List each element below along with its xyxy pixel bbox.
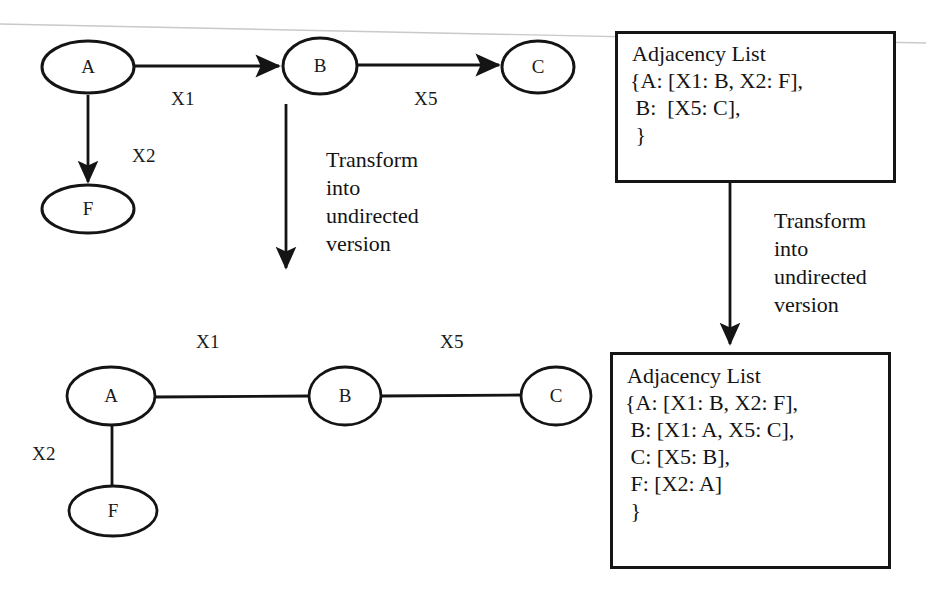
edge-b-c-undirected	[381, 395, 523, 396]
node-label-b-undirected: B	[325, 386, 365, 405]
node-label-a-undirected: A	[91, 386, 131, 405]
adjacency-list-directed-box: Adjacency List {A: [X1: B, X2: F], B: [X…	[615, 31, 896, 183]
adjacency-list-undirected-title: Adjacency List	[627, 362, 761, 389]
edge-label-x5-directed: X5	[414, 88, 438, 110]
node-label-f-undirected: F	[93, 501, 133, 520]
adjacency-list-directed-body: {A: [X1: B, X2: F], B: [X5: C], }	[630, 67, 803, 148]
transform-caption-list: Transform into undirected version	[774, 207, 867, 319]
adjacency-list-undirected-box: Adjacency List {A: [X1: B, X2: F], B: [X…	[610, 352, 891, 569]
node-label-a-directed: A	[68, 57, 108, 76]
node-label-b-directed: B	[300, 56, 340, 75]
edge-a-b-undirected	[154, 396, 311, 397]
node-label-c-undirected: C	[536, 386, 576, 405]
node-label-f-directed: F	[68, 199, 108, 218]
transform-caption-graph: Transform into undirected version	[326, 146, 419, 258]
edge-label-x2-directed: X2	[132, 145, 156, 167]
edge-label-x2-undirected: X2	[32, 443, 56, 465]
node-label-c-directed: C	[518, 57, 558, 76]
adjacency-list-undirected-body: {A: [X1: B, X2: F], B: [X1: A, X5: C], C…	[625, 389, 798, 524]
edge-label-x5-undirected: X5	[440, 331, 464, 353]
adjacency-list-directed-title: Adjacency List	[632, 40, 766, 67]
diagram-canvas: A B C F X1 X5 X2 A B C F X1 X5 X2 Transf…	[0, 0, 926, 603]
edge-label-x1-undirected: X1	[196, 331, 220, 353]
edge-label-x1-directed: X1	[171, 88, 195, 110]
